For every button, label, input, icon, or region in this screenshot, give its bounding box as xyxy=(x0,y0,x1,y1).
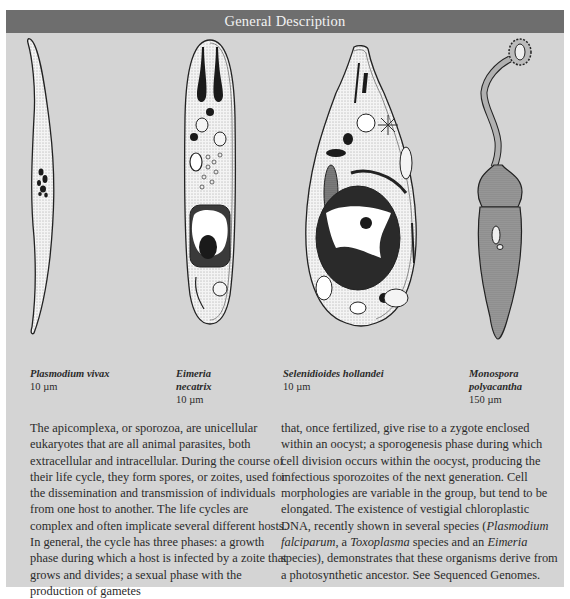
monospora-cell-icon xyxy=(468,37,538,347)
body-text-segment: , a xyxy=(335,535,350,549)
figure-row: Plasmodium vivax 10 µm Eimeria necatrix … xyxy=(6,33,564,363)
species-name-line1: Monospora xyxy=(469,367,522,380)
species-name-line2: polyacantha xyxy=(469,380,522,393)
scale-size: 10 µm xyxy=(283,380,384,393)
plasmodium-cell-icon xyxy=(24,37,74,337)
selenidioides-cell-icon xyxy=(296,43,426,333)
eimeria-cell-icon xyxy=(182,37,238,327)
scale-size: 10 µm xyxy=(30,380,110,393)
general-description-panel: General Description xyxy=(6,10,564,587)
caption-plasmodium: Plasmodium vivax 10 µm xyxy=(30,367,110,393)
section-header: General Description xyxy=(6,10,564,33)
sequenced-genomes-link[interactable]: Sequenced Genomes xyxy=(433,568,537,582)
species-italic: Eimeria xyxy=(487,535,527,549)
top-margin xyxy=(0,0,570,10)
species-name-line1: Eimeria xyxy=(176,367,212,380)
species-name: Plasmodium vivax xyxy=(30,367,110,380)
body-text-right-column: that, once fertilized, give rise to a zy… xyxy=(281,420,559,583)
caption-monospora: Monospora polyacantha 150 µm xyxy=(469,367,522,406)
body-text-segment: that, once fertilized, give rise to a zy… xyxy=(281,421,547,533)
caption-selenidioides: Selenidioides hollandei 10 µm xyxy=(283,367,384,393)
caption-eimeria: Eimeria necatrix 10 µm xyxy=(176,367,212,406)
species-name: Selenidioides hollandei xyxy=(283,367,384,380)
species-italic: Toxoplasma xyxy=(350,535,409,549)
scale-size: 10 µm xyxy=(176,393,212,406)
scale-size: 150 µm xyxy=(469,393,522,406)
body-text-segment: species and an xyxy=(410,535,488,549)
section-title: General Description xyxy=(225,13,346,29)
body-text-segment: . xyxy=(537,568,540,582)
body-text-left-column: The apicomplexa, or sporozoa, are unicel… xyxy=(30,420,292,599)
species-name-line2: necatrix xyxy=(176,380,212,393)
